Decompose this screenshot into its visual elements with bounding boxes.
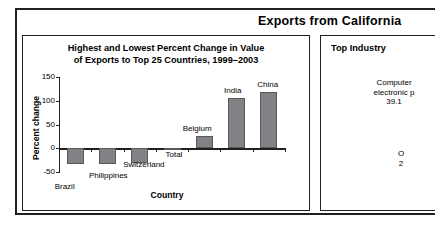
x-axis-tick-mark xyxy=(156,148,157,152)
chart-axes: -50050100150BrazilPhilippinesSwitzerland… xyxy=(59,77,285,172)
y-axis-tick-label: 100 xyxy=(42,97,55,105)
x-axis-tick-mark xyxy=(220,148,221,152)
chart-title: Highest and Lowest Percent Change in Val… xyxy=(23,43,309,66)
pie-slice-label-computer: Computer electronic p 39.1 xyxy=(339,78,439,107)
pie-slice-computer-value: 39.1 xyxy=(339,97,439,107)
y-axis-tick-label: 150 xyxy=(42,73,55,81)
y-axis-tick-label: -50 xyxy=(43,168,55,176)
bar-india xyxy=(228,98,245,148)
x-axis-category-label: Total xyxy=(166,150,183,159)
chart-title-line-2: of Exports to Top 25 Countries, 1999–200… xyxy=(23,55,309,67)
y-axis-tick-mark xyxy=(56,125,60,126)
x-axis-category-label: Philippines xyxy=(89,171,128,180)
bar-china xyxy=(260,92,277,148)
pie-slice-computer-line-1: Computer xyxy=(339,78,439,88)
bar-chart-panel: Highest and Lowest Percent Change in Val… xyxy=(22,35,310,211)
bar-brazil xyxy=(67,148,84,164)
page-title: Exports from California xyxy=(258,14,402,28)
x-axis-category-label: Switzerland xyxy=(123,160,164,169)
x-axis-category-label: Belgium xyxy=(183,124,212,133)
plot-area: Percent change -50050100150BrazilPhilipp… xyxy=(23,77,311,212)
pie-slice-label-other: O 2 xyxy=(361,149,439,168)
y-axis-label: Percent change xyxy=(31,84,41,172)
pie-slice-computer-line-2: electronic p xyxy=(339,88,439,98)
x-axis-tick-mark xyxy=(285,148,286,152)
y-axis-tick-mark xyxy=(56,172,60,173)
x-axis-tick-mark xyxy=(91,148,92,152)
x-axis-label: Country xyxy=(23,190,311,200)
bar-belgium xyxy=(196,136,213,148)
chart-title-line-1: Highest and Lowest Percent Change in Val… xyxy=(23,43,309,55)
y-axis-tick-mark xyxy=(56,77,60,78)
x-axis-tick-mark xyxy=(124,148,125,152)
y-axis-tick-label: 50 xyxy=(46,121,55,129)
x-axis-tick-mark xyxy=(188,148,189,152)
y-axis-tick-mark xyxy=(56,101,60,102)
x-axis-category-label: China xyxy=(257,80,278,89)
top-industry-panel: Top Industry Computer electronic p 39.1 … xyxy=(320,35,435,211)
x-axis-category-label: India xyxy=(224,86,241,95)
y-axis-tick-label: 0 xyxy=(51,144,55,152)
x-axis-tick-mark xyxy=(253,148,254,152)
pie-slice-other-value: 2 xyxy=(361,159,439,169)
pie-slice-other-line-1: O xyxy=(361,149,439,159)
bar-philippines xyxy=(99,148,116,164)
top-industry-title: Top Industry xyxy=(331,43,386,53)
